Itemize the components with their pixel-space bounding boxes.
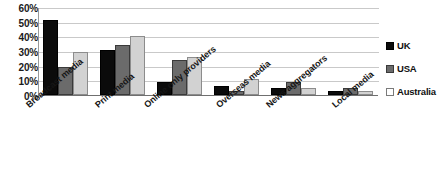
y-tick-label: 40% [2, 33, 38, 43]
bar-australia [358, 91, 373, 95]
legend-label: UK [397, 40, 410, 51]
legend-item-usa: USA [386, 63, 440, 74]
chart-legend: UK USA Australia [386, 40, 440, 109]
y-axis: 60% 50% 40% 30% 20% 10% 0% [0, 0, 38, 184]
y-tick-label: 50% [2, 19, 38, 29]
legend-item-australia: Australia [386, 86, 440, 97]
y-tick-label: 10% [2, 77, 38, 87]
bar-australia [301, 88, 316, 95]
y-tick-label: 20% [2, 63, 38, 73]
legend-item-uk: UK [386, 40, 440, 51]
legend-swatch-icon [386, 42, 394, 50]
legend-swatch-icon [386, 88, 394, 96]
legend-swatch-icon [386, 65, 394, 73]
legend-label: Australia [397, 86, 436, 97]
y-tick-label: 60% [2, 4, 38, 14]
y-tick-label: 30% [2, 48, 38, 58]
bar-chart: 60% 50% 40% 30% 20% 10% 0% [0, 0, 440, 184]
bar-australia [130, 36, 145, 95]
legend-label: USA [397, 63, 416, 74]
